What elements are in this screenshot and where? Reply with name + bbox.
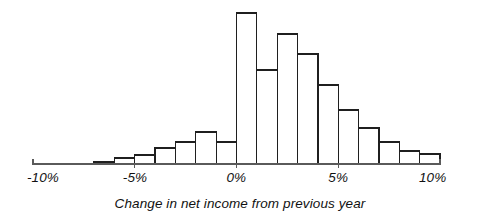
x-tick-label: 0% [227,170,247,185]
histogram-bar [359,128,379,164]
histogram-bar [298,54,318,164]
histogram-bar [114,158,134,164]
histogram-bar [257,70,277,164]
histogram-bar [399,151,419,164]
histogram-bar [237,13,257,164]
x-tick-label: 10% [419,170,446,185]
histogram-bar [277,34,297,164]
x-tick-label: -5% [123,170,147,185]
x-tick-label: -10% [27,170,59,185]
bars-group [94,13,440,164]
x-tick-label: 5% [328,170,348,185]
histogram-bar [155,148,175,164]
histogram-bar [420,154,440,164]
histogram-bar [216,142,236,164]
x-axis-caption: Change in net income from previous year [0,196,480,211]
histogram-bar [196,132,216,164]
histogram-bar [338,110,358,164]
histogram-plot-area [0,0,480,220]
histogram-bar [175,142,195,164]
histogram-bar [318,85,338,164]
histogram-bar [135,155,155,164]
histogram-bar [379,142,399,164]
histogram-figure: -10%-5%0%5%10% Change in net income from… [0,0,480,220]
